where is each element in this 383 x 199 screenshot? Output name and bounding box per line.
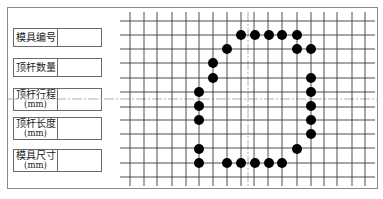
ejector-pin-dot [264,158,274,168]
ejector-pin-dot [306,101,316,111]
pin-grid [0,0,383,199]
ejector-pin-dot [208,73,218,83]
ejector-pin-dot [292,44,302,54]
ejector-pin-dot [194,115,204,125]
ejector-pin-dot [306,115,316,125]
ejector-pin-dot [236,30,246,40]
ejector-pin-dot [277,30,287,40]
ejector-pin-dot [222,44,232,54]
ejector-pin-dot [250,30,260,40]
ejector-pin-dot [250,158,260,168]
ejector-pin-dot [194,158,204,168]
ejector-pin-dot [264,30,274,40]
ejector-pin-dot [194,87,204,97]
ejector-pin-dot [194,144,204,154]
ejector-pin-dot [306,129,316,139]
ejector-pin-dot [194,101,204,111]
ejector-pin-dot [306,87,316,97]
ejector-pin-dot [292,30,302,40]
ejector-pin-dot [277,158,287,168]
ejector-pin-dot [306,44,316,54]
ejector-pin-dot [208,58,218,68]
ejector-pin-dot [236,158,246,168]
ejector-pin-dot [222,158,232,168]
ejector-pin-dot [292,144,302,154]
ejector-pin-layout-diagram: 模具编号 顶杆数量 顶杆行程 (mm) 顶杆长度 (mm) 模具尺寸 (mm) [0,0,383,199]
ejector-pin-dot [306,73,316,83]
